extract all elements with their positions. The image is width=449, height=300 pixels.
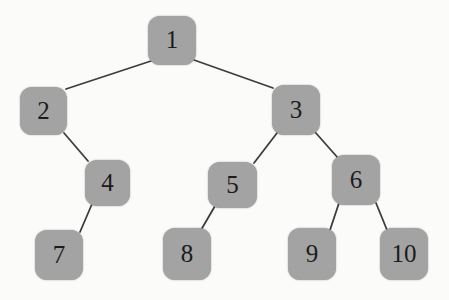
tree-edge-3-5	[254, 133, 277, 163]
tree-node-label: 2	[37, 98, 50, 123]
tree-node-label: 8	[181, 241, 194, 266]
tree-node-6: 6	[332, 155, 380, 205]
tree-node-7: 7	[35, 230, 83, 280]
tree-node-8: 8	[163, 228, 211, 280]
tree-node-2: 2	[20, 87, 67, 135]
tree-node-label: 7	[53, 242, 66, 267]
tree-node-3: 3	[272, 85, 320, 135]
tree-edge-6-10	[376, 203, 387, 230]
tree-node-5: 5	[208, 162, 257, 208]
tree-node-1: 1	[148, 16, 196, 65]
tree-node-10: 10	[380, 228, 428, 280]
tree-node-9: 9	[288, 228, 336, 280]
tree-edge-1-3	[194, 60, 273, 88]
tree-edge-2-4	[64, 133, 88, 161]
tree-node-label: 3	[290, 97, 303, 122]
tree-node-4: 4	[85, 160, 130, 206]
tree-edge-5-8	[201, 206, 215, 230]
tree-edge-6-9	[330, 203, 339, 230]
tree-node-label: 1	[166, 27, 179, 52]
tree-node-label: 4	[101, 170, 114, 195]
tree-node-label: 5	[226, 172, 239, 197]
tree-edge-4-7	[80, 204, 92, 232]
tree-node-label: 6	[350, 167, 363, 192]
binary-tree-figure: 12345678910	[0, 0, 449, 300]
tree-edge-3-6	[315, 132, 338, 158]
tree-edge-1-2	[66, 61, 151, 89]
tree-node-label: 10	[392, 241, 417, 266]
tree-node-label: 9	[306, 241, 319, 266]
